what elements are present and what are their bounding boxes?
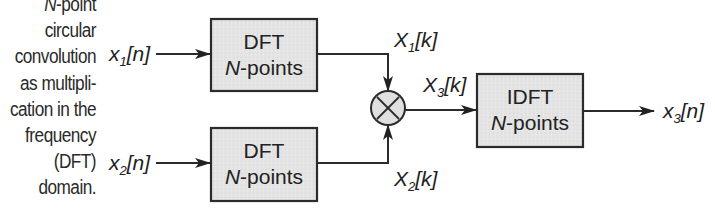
idft-block: IDFT N-points xyxy=(477,74,583,147)
X2-label: X2[k] xyxy=(393,167,439,194)
idft-title: IDFT xyxy=(507,85,554,108)
arrow-dft1-to-multiplier xyxy=(317,54,388,91)
arrow-dft2-to-multiplier xyxy=(317,125,388,163)
input-x2-label: x2[n] xyxy=(108,151,151,178)
output-x3-label: x3[n] xyxy=(662,99,705,126)
dft2-subtitle: N-points xyxy=(225,165,303,188)
dft1-title: DFT xyxy=(244,30,285,53)
dft-block-1: DFT N-points xyxy=(211,19,317,91)
dft2-title: DFT xyxy=(244,139,285,162)
block-diagram: x1[n] x2[n] DFT N-points DFT N-points X1… xyxy=(0,0,715,218)
multiplier-icon xyxy=(371,91,405,125)
X3-label: X3[k] xyxy=(422,73,468,100)
dft1-subtitle: N-points xyxy=(225,56,303,79)
dft-block-2: DFT N-points xyxy=(211,128,317,201)
idft-subtitle: N-points xyxy=(491,111,569,134)
X1-label: X1[k] xyxy=(393,28,439,55)
input-x1-label: x1[n] xyxy=(108,42,151,69)
